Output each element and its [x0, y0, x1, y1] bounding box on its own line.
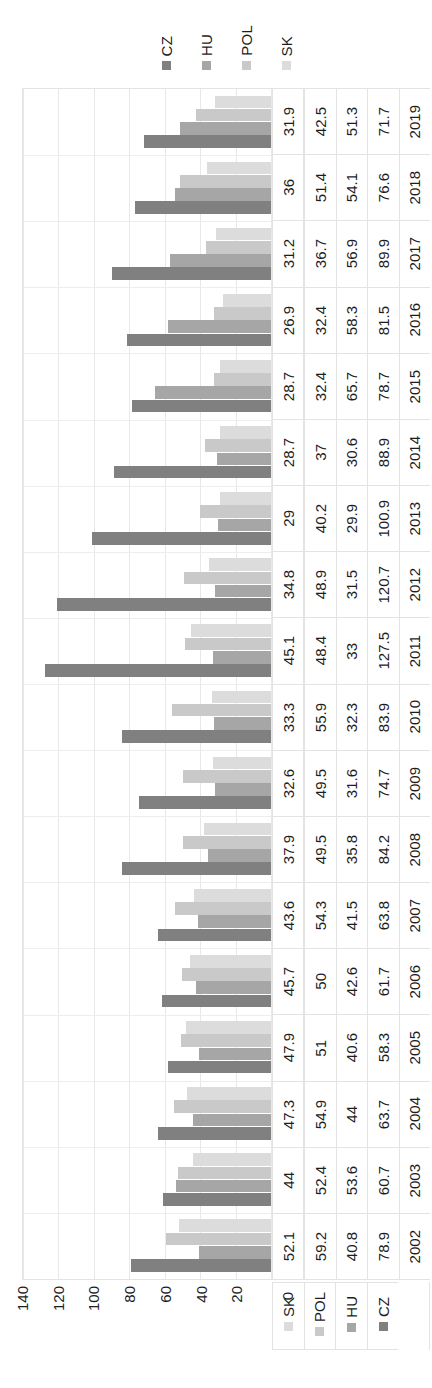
table-header-cz[interactable]: CZ — [367, 1282, 399, 1350]
table-cell-value: 29.9 — [343, 504, 360, 533]
legend-swatch — [202, 61, 211, 70]
table-cell: 56.9 — [337, 221, 367, 287]
table-cell-value: 29 — [280, 510, 297, 527]
axis-tick-label: 140 — [14, 1286, 31, 1311]
table-cell-value: 2008 — [406, 833, 423, 866]
table-cell-value: 2004 — [406, 1097, 423, 1130]
table-cell-value: 42.5 — [312, 107, 329, 136]
bar-hu-2017 — [170, 254, 271, 267]
table-cell: 51 — [305, 1015, 335, 1081]
bar-hu-2011 — [213, 651, 271, 664]
table-cell: 54.1 — [337, 155, 367, 221]
bar-cz-2012 — [57, 598, 271, 611]
bar-cz-2004 — [158, 1127, 271, 1140]
table-cell-value: 2007 — [406, 899, 423, 932]
axis-tick-0: 0 — [272, 1286, 302, 1304]
bar-sk-2003 — [193, 1153, 271, 1166]
bar-sk-2004 — [187, 1087, 271, 1100]
table-cell-value: 49.5 — [312, 769, 329, 798]
table-header-swatch — [379, 1322, 388, 1331]
table-cell: 120.7 — [368, 552, 398, 618]
bar-pol-2010 — [172, 704, 271, 717]
table-cell: 81.5 — [368, 288, 398, 354]
bar-hu-2007 — [198, 915, 272, 928]
table-header-pol[interactable]: POL — [304, 1282, 336, 1350]
table-cell-value: 127.5 — [375, 632, 392, 670]
table-cell: 54.3 — [305, 883, 335, 949]
table-cell-value: 2002 — [406, 1230, 423, 1263]
table-cell: 89.9 — [368, 221, 398, 287]
axis-tick-label: 120 — [50, 1286, 67, 1311]
table-cell-value: 74.7 — [375, 769, 392, 798]
bar-cz-2016 — [127, 334, 271, 347]
table-cell-value: 41.5 — [343, 901, 360, 930]
table-cell-value: 58.3 — [375, 1033, 392, 1062]
bar-cz-2011 — [45, 664, 271, 677]
table-cell: 58.3 — [368, 1015, 398, 1081]
bar-cz-2009 — [139, 796, 271, 809]
table-cell-value: 32.4 — [312, 306, 329, 335]
table-cell: 63.8 — [368, 883, 398, 949]
bar-hu-2015 — [155, 386, 271, 399]
table-cell: 44 — [273, 1148, 303, 1214]
legend-label: POL — [238, 25, 255, 56]
bar-hu-2008 — [208, 849, 271, 862]
bar-group-2018 — [23, 155, 271, 221]
table-cell: 2002 — [400, 1214, 430, 1280]
axis-tick-label: 40 — [193, 1286, 210, 1303]
table-cell: 78.9 — [368, 1214, 398, 1280]
legend-label: SK — [278, 36, 295, 56]
bar-pol-2011 — [185, 638, 271, 651]
axis-tick-label: 100 — [85, 1286, 102, 1311]
bar-hu-2004 — [193, 1114, 271, 1127]
chart-legend: CZHUPOLSK — [0, 0, 432, 78]
bar-sk-2008 — [204, 823, 271, 836]
table-cell: 49.5 — [305, 817, 335, 883]
bar-pol-2016 — [214, 307, 271, 320]
table-cell: 2005 — [400, 1015, 430, 1081]
table-cell-value: 26.9 — [280, 306, 297, 335]
table-cell: 40.8 — [337, 1214, 367, 1280]
table-header-swatch — [315, 1327, 324, 1336]
table-header-hu[interactable]: HU — [335, 1282, 367, 1350]
legend-item-sk[interactable]: SK — [263, 36, 309, 70]
bar-cz-2002 — [131, 1259, 271, 1272]
plot-area — [22, 88, 272, 1280]
legend-swatch — [162, 61, 171, 70]
bar-group-2005 — [23, 1015, 271, 1081]
bar-sk-2014 — [220, 426, 271, 439]
table-cell-value: 88.9 — [375, 438, 392, 467]
table-cell-value: 65.7 — [343, 372, 360, 401]
table-cell: 47.9 — [273, 1015, 303, 1081]
table-cell: 45.7 — [273, 949, 303, 1015]
table-cell: 26.9 — [273, 288, 303, 354]
table-cell-value: 52.1 — [280, 1232, 297, 1261]
table-cell: 31.5 — [337, 552, 367, 618]
bar-pol-2012 — [184, 572, 271, 585]
bar-cz-2015 — [132, 400, 271, 413]
table-cell-value: 31.5 — [343, 570, 360, 599]
table-cell-value: 2018 — [406, 171, 423, 204]
bar-cz-2007 — [158, 929, 271, 942]
table-cell: 61.7 — [368, 949, 398, 1015]
table-cell-value: 71.7 — [375, 107, 392, 136]
table-cell-value: 43.6 — [280, 901, 297, 930]
table-cell: 2014 — [400, 420, 430, 486]
table-header-label: CZ — [375, 1297, 392, 1317]
table-cell: 29.9 — [337, 486, 367, 552]
table-cell-value: 2009 — [406, 767, 423, 800]
table-cell-value: 55.9 — [312, 703, 329, 732]
value-axis-ticks: 14012010080604020 — [22, 1282, 272, 1344]
table-column-hu: 51.354.156.958.365.730.629.931.53332.331… — [336, 88, 367, 1280]
table-cell: 88.9 — [368, 420, 398, 486]
table-cell: 55.9 — [305, 685, 335, 751]
table-cell-value: 78.7 — [375, 372, 392, 401]
table-cell-value: 2006 — [406, 965, 423, 998]
table-cell: 2006 — [400, 949, 430, 1015]
bar-sk-2002 — [179, 1219, 271, 1232]
table-cell: 52.4 — [305, 1148, 335, 1214]
bar-hu-2010 — [214, 717, 271, 730]
axis-tick-label: 0 — [279, 1292, 296, 1300]
bar-pol-2019 — [196, 109, 271, 122]
table-cell: 52.1 — [273, 1214, 303, 1280]
